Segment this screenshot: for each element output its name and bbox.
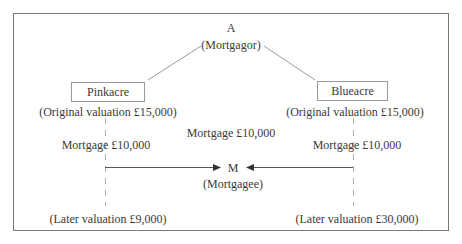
blueacre-mortgage: Mortgage £10,000 xyxy=(313,138,402,152)
mortgagee-role: (Mortgagee) xyxy=(203,177,263,191)
pinkacre-original-valuation: (Original valuation £15,000) xyxy=(39,105,177,119)
connector-lines xyxy=(0,0,462,244)
pinkacre-box: Pinkacre xyxy=(71,82,145,102)
line-a-to-pinkacre xyxy=(148,46,201,80)
blueacre-later-valuation: (Later valuation £30,000) xyxy=(296,212,419,226)
arrowhead-right-icon xyxy=(213,164,221,171)
central-mortgage-label: Mortgage £10,000 xyxy=(187,126,276,140)
mortgagor-name: A xyxy=(227,21,236,35)
mortgagee-name: M xyxy=(228,161,239,175)
pinkacre-label: Pinkacre xyxy=(87,85,129,100)
arrowhead-left-icon xyxy=(246,164,254,171)
blueacre-original-valuation: (Original valuation £15,000) xyxy=(286,105,424,119)
pinkacre-mortgage: Mortgage £10,000 xyxy=(62,138,151,152)
line-a-to-blueacre xyxy=(264,46,315,80)
blueacre-box: Blueacre xyxy=(317,81,388,101)
pinkacre-later-valuation: (Later valuation £9,000) xyxy=(50,212,167,226)
mortgagor-role: (Mortgagor) xyxy=(201,38,260,52)
blueacre-label: Blueacre xyxy=(331,84,374,99)
